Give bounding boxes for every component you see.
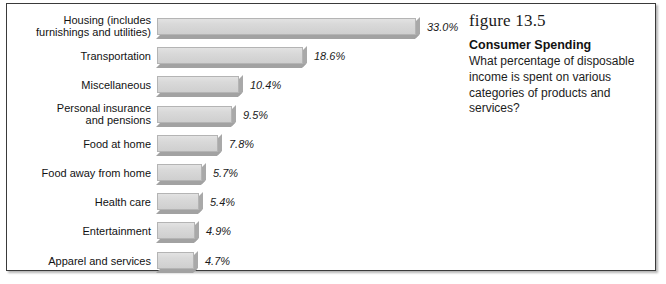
bar-graphic xyxy=(157,193,199,210)
bar-row: Food at home7.8% xyxy=(7,135,462,157)
bar-value-label: 7.8% xyxy=(229,138,254,150)
bar-bottom-shadow xyxy=(156,210,202,214)
bar-row: Personal insurance and pensions9.5% xyxy=(7,106,462,128)
bar-face xyxy=(157,18,416,35)
bar-bottom-shadow xyxy=(156,239,198,243)
bar-row: Food away from home5.7% xyxy=(7,164,462,186)
bar-value-label: 5.7% xyxy=(213,167,238,179)
bar-category-label: Food away from home xyxy=(0,167,151,179)
figure-number: figure 13.5 xyxy=(469,12,649,31)
bar-category-label: Transportation xyxy=(0,50,151,62)
figure-title: Consumer Spending xyxy=(469,38,649,54)
bar-category-label: Health care xyxy=(0,196,151,208)
bar-row: Miscellaneous10.4% xyxy=(7,76,462,98)
figure-description: What percentage of disposable income is … xyxy=(469,54,641,116)
bar-graphic xyxy=(157,76,239,93)
bar-value-label: 4.7% xyxy=(205,255,230,267)
bar-graphic xyxy=(157,252,194,269)
bar-bottom-shadow xyxy=(156,93,242,97)
bar-bottom-shadow xyxy=(156,35,419,39)
bar-bottom-shadow xyxy=(156,269,197,273)
bar-bottom-shadow xyxy=(156,123,235,127)
bar-category-label: Personal insurance and pensions xyxy=(0,102,151,127)
bar-category-label: Apparel and services xyxy=(0,255,151,267)
bar-face xyxy=(157,164,202,181)
bar-chart: Housing (includes furnishings and utilit… xyxy=(7,4,462,270)
figure-frame: Housing (includes furnishings and utilit… xyxy=(6,3,656,271)
bar-face xyxy=(157,252,194,269)
bar-value-label: 4.9% xyxy=(206,225,231,237)
bar-bottom-shadow xyxy=(156,152,221,156)
figure-container: Housing (includes furnishings and utilit… xyxy=(0,0,666,284)
figure-caption: figure 13.5 Consumer Spending What perce… xyxy=(469,12,649,117)
bar-category-label: Miscellaneous xyxy=(0,79,151,91)
bar-graphic xyxy=(157,222,195,239)
bar-graphic xyxy=(157,164,202,181)
bar-row: Apparel and services4.7% xyxy=(7,252,462,274)
bar-bottom-shadow xyxy=(156,64,306,68)
bar-value-label: 18.6% xyxy=(314,50,345,62)
bar-face xyxy=(157,193,199,210)
bar-face xyxy=(157,106,232,123)
bar-graphic xyxy=(157,18,416,35)
bar-row: Entertainment4.9% xyxy=(7,222,462,244)
bar-graphic xyxy=(157,47,303,64)
bar-value-label: 33.0% xyxy=(427,21,458,33)
bar-value-label: 9.5% xyxy=(243,109,268,121)
bar-row: Housing (includes furnishings and utilit… xyxy=(7,18,462,40)
bar-category-label: Food at home xyxy=(0,138,151,150)
bar-face xyxy=(157,47,303,64)
bar-face xyxy=(157,76,239,93)
bar-category-label: Housing (includes furnishings and utilit… xyxy=(0,14,151,39)
bar-row: Health care5.4% xyxy=(7,193,462,215)
bar-face xyxy=(157,135,218,152)
bar-value-label: 10.4% xyxy=(250,79,281,91)
bar-face xyxy=(157,222,195,239)
bar-category-label: Entertainment xyxy=(0,225,151,237)
bar-row: Transportation18.6% xyxy=(7,47,462,69)
bar-bottom-shadow xyxy=(156,181,205,185)
bar-graphic xyxy=(157,135,218,152)
bar-value-label: 5.4% xyxy=(210,196,235,208)
bar-graphic xyxy=(157,106,232,123)
